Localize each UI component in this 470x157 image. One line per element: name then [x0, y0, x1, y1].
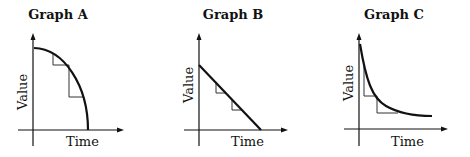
graph-b: Graph B Value Time — [160, 0, 320, 157]
graph-c-xlabel: Time — [391, 134, 424, 149]
graph-c-plot: Value Time — [310, 0, 470, 157]
graph-a: Graph A Value Time — [0, 0, 160, 157]
graph-b-plot: Value Time — [160, 0, 320, 157]
graph-a-plot: Value Time — [0, 0, 160, 157]
graph-b-ylabel: Value — [181, 67, 196, 104]
graph-a-xlabel: Time — [66, 134, 99, 149]
graph-c-ylabel: Value — [341, 65, 356, 102]
graph-a-ylabel: Value — [15, 74, 30, 111]
graph-c: Graph C Value Time — [310, 0, 470, 157]
graph-b-xlabel: Time — [231, 134, 264, 149]
